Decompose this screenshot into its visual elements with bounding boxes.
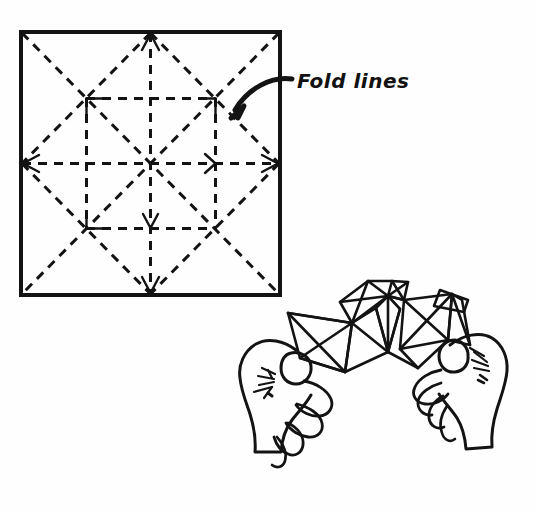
left-hand — [240, 340, 332, 467]
right-hand — [414, 334, 508, 449]
folded-paper-model — [288, 281, 470, 372]
hands-holding-folded-paper — [240, 281, 508, 467]
fold-lines-group — [22, 33, 279, 294]
fold-lines-callout-arrow — [231, 79, 292, 118]
figure-page: Fold lines — [0, 0, 536, 511]
fold-lines-label: Fold lines — [297, 69, 409, 93]
fold-lines-figure: Fold lines — [0, 0, 536, 511]
